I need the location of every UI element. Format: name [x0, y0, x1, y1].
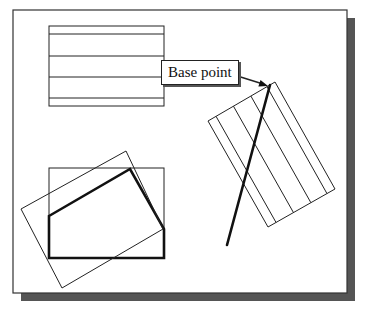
- drawing-frame: [13, 10, 347, 293]
- drawing-canvas: [0, 0, 366, 310]
- base-point-label: Base point: [168, 64, 232, 80]
- base-point-callout: Base point: [161, 60, 239, 85]
